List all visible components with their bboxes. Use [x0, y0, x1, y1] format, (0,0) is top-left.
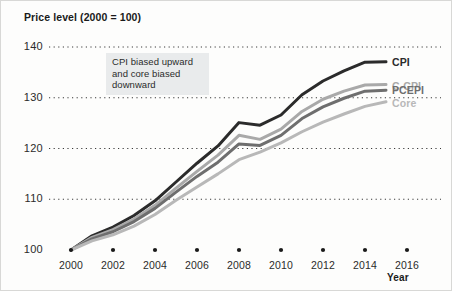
baseline-dot-2014 [363, 248, 367, 252]
series-label-cpi: CPI [392, 56, 410, 68]
y-tick-130: 130 [9, 91, 43, 103]
series-lines [71, 62, 386, 250]
y-tick-120: 120 [9, 142, 43, 154]
baseline-dot-2004 [153, 248, 157, 252]
baseline-dot-2002 [111, 248, 115, 252]
series-label-core: Core [392, 97, 416, 109]
x-tick-2016: 2016 [387, 259, 427, 271]
y-tick-100: 100 [9, 243, 43, 255]
series-label-pcepi: PCEPI [392, 84, 424, 96]
x-tick-2008: 2008 [219, 259, 259, 271]
y-tick-140: 140 [9, 40, 43, 52]
x-tick-2004: 2004 [135, 259, 175, 271]
y-tick-110: 110 [9, 192, 43, 204]
x-axis-title: Year [387, 272, 409, 283]
baseline-dot-2008 [237, 248, 241, 252]
x-tick-2006: 2006 [177, 259, 217, 271]
baseline-markers [69, 248, 409, 252]
x-tick-2002: 2002 [93, 259, 133, 271]
x-tick-2000: 2000 [51, 259, 91, 271]
line-chart-plot [1, 1, 452, 291]
baseline-dot-2006 [195, 248, 199, 252]
x-tick-2014: 2014 [345, 259, 385, 271]
x-tick-2012: 2012 [303, 259, 343, 271]
baseline-dot-2000 [69, 248, 73, 252]
baseline-dot-2010 [279, 248, 283, 252]
series-line-cpi [71, 62, 386, 250]
chart-container: Price level (2000 = 100) CPI biased upwa… [0, 0, 452, 291]
x-tick-2010: 2010 [261, 259, 301, 271]
baseline-dot-2012 [321, 248, 325, 252]
baseline-dot-2016 [405, 248, 409, 252]
